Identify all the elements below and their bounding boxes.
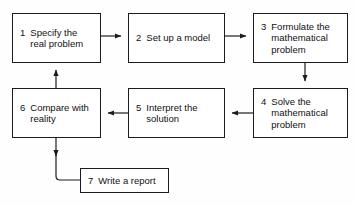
node-formulate-the-mathematical-problem[interactable]: 3 Formulate the mathematical problem: [253, 13, 348, 63]
node-number: 4: [261, 96, 271, 108]
node-label: Set up a model: [146, 32, 210, 44]
node-set-up-a-model[interactable]: 2 Set up a model: [128, 13, 225, 63]
node-label: Write a report: [98, 175, 155, 187]
node-label: Compare with reality: [30, 102, 89, 125]
flowchart-diagram: 1 Specify the real problem 2 Set up a mo…: [0, 0, 354, 206]
node-number: 2: [136, 32, 146, 44]
node-number: 5: [136, 102, 146, 114]
node-number: 1: [20, 27, 30, 39]
node-solve-the-mathematical-problem[interactable]: 4 Solve the mathematical problem: [253, 88, 348, 138]
node-label: Specify the real problem: [30, 27, 83, 50]
node-label: Interpret the solution: [146, 102, 197, 125]
node-label: Solve the mathematical problem: [271, 96, 328, 131]
node-label: Formulate the mathematical problem: [271, 21, 330, 56]
edge-6-to-7-elbow: [56, 152, 80, 180]
node-number: 6: [20, 102, 30, 114]
node-number: 7: [88, 175, 98, 187]
node-compare-with-reality[interactable]: 6 Compare with reality: [12, 88, 101, 138]
node-number: 3: [261, 21, 271, 33]
node-interpret-the-solution[interactable]: 5 Interpret the solution: [128, 88, 225, 138]
node-specify-the-real-problem[interactable]: 1 Specify the real problem: [12, 13, 101, 63]
node-write-a-report[interactable]: 7 Write a report: [80, 168, 169, 193]
